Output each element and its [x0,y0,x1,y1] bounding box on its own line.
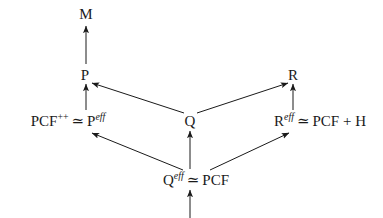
node-Q-label: Q [185,113,196,129]
arrow-Q-to-R [197,83,288,113]
simeq-icon: ≃ [294,113,313,129]
arrow-Qeff-to-Peff [92,133,183,170]
simeq-icon: ≃ [69,113,88,129]
node-M: M [79,7,92,22]
node-Q-eff-equation: Qeff≃PCF [163,173,229,188]
node-P-eff-target: P [87,113,95,129]
node-R-label: R [288,67,298,83]
node-Q: Q [185,114,196,129]
node-Q-eff-base: Q [163,172,174,188]
diagram-canvas: M P R Q PCF++≃Peff Reff≃PCF + H Qeff≃PCF [0,0,383,218]
node-P-eff-equation: PCF++≃Peff [31,114,106,129]
node-P-eff-target-sup: eff [95,111,105,122]
simeq-icon: ≃ [184,172,203,188]
node-P-eff-base: PCF [31,113,58,129]
node-M-label: M [79,6,92,22]
node-Q-eff-base-sup: eff [174,170,184,181]
node-R-eff-base-sup: eff [284,111,294,122]
node-P-label: P [81,67,89,83]
arrow-Qeff-to-Reff [210,133,289,170]
node-R-eff-target: PCF + H [312,113,365,129]
node-R-eff-base: R [274,113,284,129]
node-P-eff-base-sup: ++ [57,111,68,122]
node-Q-eff-target: PCF [202,172,229,188]
arrow-Q-to-P [92,83,184,113]
node-P: P [81,68,89,83]
node-R-eff-equation: Reff≃PCF + H [274,114,366,129]
node-R: R [288,68,298,83]
